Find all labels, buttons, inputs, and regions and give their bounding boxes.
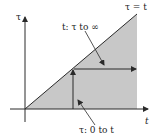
integration-region-diagram [0, 0, 160, 136]
outer-integration-label: t: τ to ∞ [62, 23, 99, 32]
tau-axis-label: τ [16, 13, 21, 22]
inner-integration-label: τ: 0 to t [79, 126, 114, 135]
diagonal-line-label: τ = t [125, 3, 147, 12]
t-axis-label: t [145, 117, 149, 126]
